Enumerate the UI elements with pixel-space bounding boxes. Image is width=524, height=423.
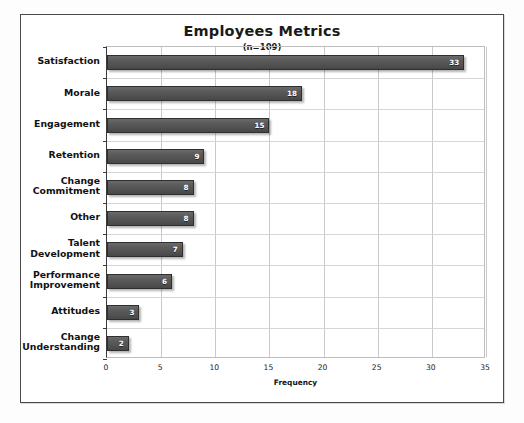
bar-value-label: 3 <box>129 308 138 317</box>
gridline-vertical <box>486 47 487 357</box>
chart-screenshot: Employees Metrics (n=109) 3318159887632 … <box>0 0 524 423</box>
bar-value-label: 15 <box>254 121 268 130</box>
bar-attitudes: 3 <box>107 305 139 320</box>
y-label-performance-improvement: Performance Improvement <box>21 270 100 291</box>
bar-retention: 9 <box>107 149 204 164</box>
chart-frame: Employees Metrics (n=109) 3318159887632 … <box>20 14 504 403</box>
bar-other: 8 <box>107 211 194 226</box>
y-axis-tick <box>103 297 107 298</box>
gridline-horizontal <box>107 172 484 173</box>
x-axis-title: Frequency <box>106 378 485 387</box>
y-axis-tick <box>103 172 107 173</box>
cut-off-header-text <box>30 0 230 8</box>
gridline-vertical <box>432 47 433 357</box>
y-label-attitudes: Attitudes <box>21 306 100 317</box>
x-tick-10: 10 <box>209 363 219 372</box>
y-label-other: Other <box>21 212 100 223</box>
gridline-horizontal <box>107 78 484 79</box>
x-tick-5: 5 <box>158 363 163 372</box>
bar-morale: 18 <box>107 86 302 101</box>
gridline-horizontal <box>107 203 484 204</box>
y-axis-tick <box>103 234 107 235</box>
bar-value-label: 8 <box>184 214 193 223</box>
bar-engagement: 15 <box>107 118 269 133</box>
y-axis-tick <box>103 47 107 48</box>
bar-performance-improvement: 6 <box>107 274 172 289</box>
bar-talent-development: 7 <box>107 242 183 257</box>
bar-change-understanding: 2 <box>107 336 129 351</box>
bar-value-label: 8 <box>184 183 193 192</box>
gridline-horizontal <box>107 141 484 142</box>
gridline-vertical <box>378 47 379 357</box>
y-label-change-understanding: Change Understanding <box>21 332 100 353</box>
y-axis-tick <box>103 78 107 79</box>
x-tick-25: 25 <box>372 363 382 372</box>
gridline-vertical <box>324 47 325 357</box>
bar-satisfaction: 33 <box>107 55 464 70</box>
y-label-engagement: Engagement <box>21 119 100 130</box>
y-label-morale: Morale <box>21 88 100 99</box>
x-tick-35: 35 <box>480 363 490 372</box>
y-label-satisfaction: Satisfaction <box>21 56 100 67</box>
bar-value-label: 33 <box>449 58 463 67</box>
chart-title: Employees Metrics <box>21 23 503 39</box>
y-axis-tick <box>103 265 107 266</box>
x-tick-15: 15 <box>264 363 274 372</box>
x-tick-0: 0 <box>104 363 109 372</box>
y-axis-tick <box>103 203 107 204</box>
bar-value-label: 2 <box>119 339 128 348</box>
gridline-horizontal <box>107 297 484 298</box>
y-axis-tick <box>103 141 107 142</box>
bar-value-label: 18 <box>287 89 301 98</box>
gridline-horizontal <box>107 265 484 266</box>
bar-value-label: 7 <box>173 245 182 254</box>
gridline-horizontal <box>107 234 484 235</box>
gridline-horizontal <box>107 328 484 329</box>
x-tick-30: 30 <box>426 363 436 372</box>
y-label-talent-development: Talent Development <box>21 238 100 259</box>
y-axis-tick <box>103 109 107 110</box>
bar-change-commitment: 8 <box>107 180 194 195</box>
y-axis-tick <box>103 359 107 360</box>
x-tick-20: 20 <box>318 363 328 372</box>
gridline-horizontal <box>107 109 484 110</box>
y-axis-tick <box>103 328 107 329</box>
plot-area: 3318159887632 <box>106 46 485 358</box>
bar-value-label: 6 <box>162 277 171 286</box>
y-label-change-commitment: Change Commitment <box>21 176 100 197</box>
bar-value-label: 9 <box>194 152 203 161</box>
y-label-retention: Retention <box>21 150 100 161</box>
